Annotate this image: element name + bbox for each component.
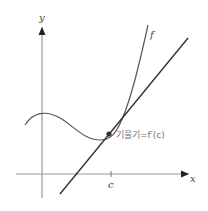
curve-label: f — [149, 29, 156, 40]
slope-label: 기울기=f′(c) — [116, 130, 165, 140]
x-axis-label: x — [190, 173, 196, 184]
tangent-point — [106, 131, 111, 136]
tangent-line-diagram: y x f c 기울기=f′(c) — [0, 0, 208, 211]
tick-label-c: c — [108, 179, 114, 190]
y-axis-label: y — [38, 12, 45, 23]
curve-f — [25, 25, 148, 140]
tangent-line — [60, 38, 188, 194]
